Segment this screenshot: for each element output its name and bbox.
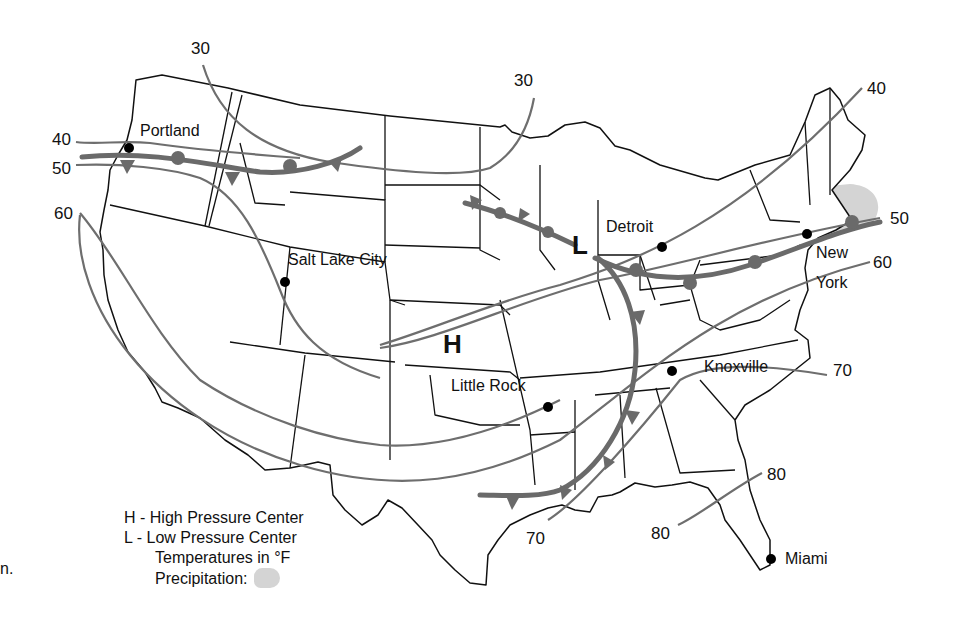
city-dot-miami [766, 554, 776, 564]
city-dot-little-rock [543, 402, 553, 412]
city-dot-knoxville [667, 366, 677, 376]
isotherm-label-60-east: 60 [873, 254, 892, 271]
high-pressure-center: H [443, 331, 462, 357]
isotherm-label-70-east: 70 [833, 362, 852, 379]
map-legend: H - High Pressure Center L - Low Pressur… [124, 508, 304, 589]
legend-temperatures: Temperatures in °F [124, 548, 304, 568]
isotherm-label-30-east: 30 [514, 72, 533, 89]
isotherm-label-40-west: 40 [52, 131, 71, 148]
city-label-detroit: Detroit [606, 219, 653, 235]
city-label-salt-lake-city: Salt Lake City [288, 252, 387, 268]
isotherm-label-50-west: 50 [52, 160, 71, 177]
city-dot-salt-lake-city [280, 277, 290, 287]
city-label-new-york-2: York [816, 275, 847, 291]
legend-precipitation-label: Precipitation: [155, 570, 248, 587]
isotherm-label-50-east: 50 [890, 210, 909, 227]
isotherm-label-60-west: 60 [54, 205, 73, 222]
legend-low: L - Low Pressure Center [124, 528, 304, 548]
precipitation-swatch-icon [254, 568, 280, 588]
city-dot-detroit [657, 242, 667, 252]
legend-high: H - High Pressure Center [124, 508, 304, 528]
low-pressure-center: L [572, 232, 588, 258]
isotherm-label-30-west: 30 [191, 40, 210, 57]
city-dot-portland [124, 143, 134, 153]
isotherm-label-80-east: 80 [767, 466, 786, 483]
city-label-new-york-1: New [816, 245, 848, 261]
city-label-little-rock: Little Rock [451, 378, 526, 394]
isotherm-label-80-south: 80 [651, 525, 670, 542]
legend-precipitation: Precipitation: [124, 568, 304, 589]
stray-text: n. [0, 560, 13, 578]
city-dot-new-york [802, 229, 812, 239]
city-label-portland: Portland [140, 123, 200, 139]
city-label-knoxville: Knoxville [704, 359, 768, 375]
isotherm-label-70-south: 70 [526, 530, 545, 547]
city-label-miami: Miami [785, 551, 828, 567]
isotherm-label-40-east: 40 [867, 80, 886, 97]
